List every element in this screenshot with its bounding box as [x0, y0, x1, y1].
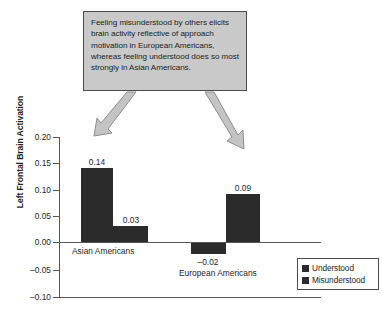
y-axis-title: Left Frontal Brain Activation	[15, 78, 25, 226]
plot-bottom-line	[59, 297, 321, 298]
y-tick-mark	[53, 137, 59, 138]
y-axis-line	[59, 137, 60, 298]
category-label-european-americans: European Americans	[179, 268, 257, 278]
bar-value-european-misunderstood: 0.09	[225, 183, 261, 193]
arrow-right-icon	[205, 92, 244, 149]
zero-baseline	[59, 242, 321, 243]
y-tick-label: 0.00	[19, 237, 51, 247]
y-tick-mark	[53, 190, 59, 191]
legend-label: Understood	[312, 263, 354, 273]
y-tick-mark	[53, 163, 59, 164]
figure: Feeling misunderstood by others elicits …	[0, 0, 383, 316]
y-tick-mark	[53, 216, 59, 217]
y-tick-label: –0.05	[19, 265, 51, 275]
legend-swatch-icon	[302, 277, 309, 284]
category-label-asian-americans: Asian Americans	[72, 246, 134, 256]
bar-asian-misunderstood	[113, 226, 148, 242]
arrow-left-icon	[94, 92, 136, 136]
bar-asian-understood	[81, 168, 113, 242]
bar-value-asian-understood: 0.14	[79, 157, 115, 167]
bar-european-misunderstood	[226, 194, 260, 242]
legend-label: Misunderstood	[312, 275, 365, 285]
legend-swatch-icon	[302, 265, 309, 272]
bar-value-european-understood: –0.02	[190, 257, 226, 267]
legend-item-understood: Understood	[302, 262, 375, 274]
legend: Understood Misunderstood	[297, 258, 379, 290]
y-tick-label: –0.10	[19, 292, 51, 302]
annotation-callout-text: Feeling misunderstood by others elicits …	[91, 17, 240, 73]
y-tick-mark	[53, 242, 59, 243]
y-tick-mark	[53, 297, 59, 298]
legend-item-misunderstood: Misunderstood	[302, 274, 375, 286]
bar-value-asian-misunderstood: 0.03	[113, 215, 149, 225]
y-tick-mark	[53, 270, 59, 271]
annotation-callout: Feeling misunderstood by others elicits …	[83, 11, 247, 91]
bar-european-understood	[191, 243, 226, 254]
